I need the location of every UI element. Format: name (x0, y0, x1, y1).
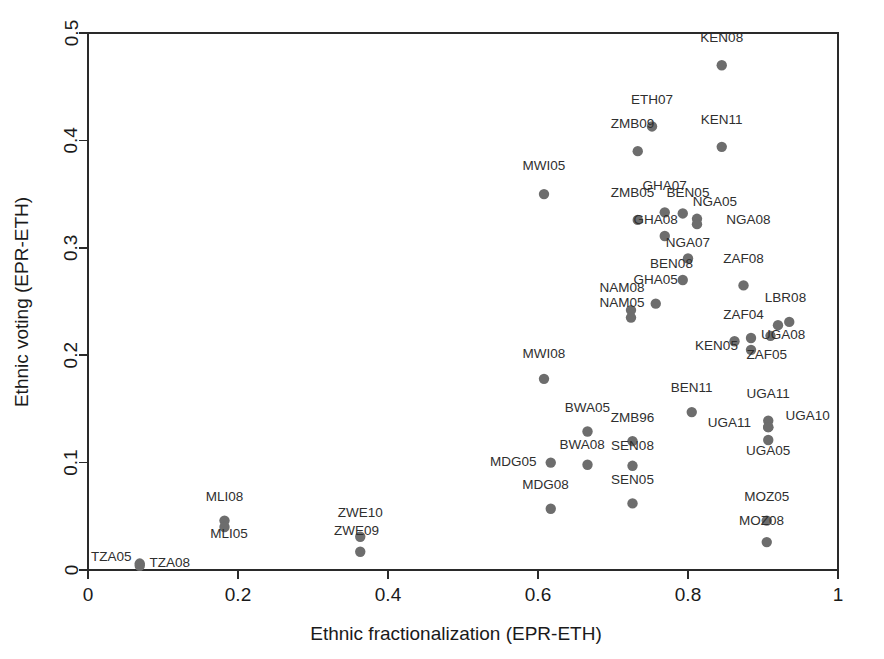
data-point-label: NAM08 (599, 280, 644, 295)
data-point-label: MDG08 (522, 477, 569, 492)
data-point-label: SEN05 (611, 472, 654, 487)
data-point (784, 317, 794, 327)
plot-canvas: 00.20.40.60.81 00.10.20.30.40.5 KEN08ETH… (0, 0, 884, 659)
data-point (717, 60, 727, 70)
x-tick-label: 0 (83, 584, 94, 605)
data-point-label: ZWE09 (334, 523, 379, 538)
data-point (627, 461, 637, 471)
data-point-label: ZAF05 (746, 347, 787, 362)
y-tick-label: 0.5 (61, 20, 82, 46)
data-point (546, 504, 556, 514)
data-point (763, 422, 773, 432)
data-point-label: NGA05 (693, 194, 737, 209)
data-point (746, 333, 756, 343)
data-point-label: ZAF08 (723, 251, 764, 266)
data-point-label: BEN08 (650, 256, 693, 271)
data-point (678, 275, 688, 285)
data-point-label: KEN05 (695, 338, 738, 353)
data-point-label: BEN11 (671, 380, 713, 395)
data-point-label: KEN11 (701, 112, 743, 127)
data-point-label: BWA05 (565, 400, 610, 415)
data-point-label: UGA10 (786, 408, 830, 423)
y-tick-label: 0.1 (61, 449, 82, 475)
data-point (135, 561, 145, 571)
data-point (651, 298, 661, 308)
y-tick-label: 0.4 (61, 127, 82, 154)
y-tick-label: 0 (61, 565, 82, 576)
data-point-label: TZA05 (91, 549, 132, 564)
scatter-plot-figure: 00.20.40.60.81 00.10.20.30.40.5 KEN08ETH… (0, 0, 884, 659)
data-point (633, 146, 643, 156)
data-point-label: LBR08 (765, 290, 806, 305)
data-point-label: NGA07 (666, 235, 710, 250)
data-point (355, 547, 365, 557)
data-point-label: MLI05 (210, 526, 248, 541)
data-point-label: MWI05 (523, 158, 566, 173)
y-axis-ticks: 00.10.20.30.40.5 (61, 20, 89, 576)
data-point (627, 498, 637, 508)
data-point-label: SEN08 (611, 438, 654, 453)
data-point (626, 312, 636, 322)
data-point-label: ZMB05 (611, 185, 655, 200)
data-point-label: KEN08 (700, 30, 743, 45)
data-point (738, 280, 748, 290)
data-point-label: ZAF04 (723, 307, 764, 322)
x-axis-ticks: 00.20.40.60.81 (83, 570, 844, 605)
data-point-label: MLI08 (206, 489, 244, 504)
y-axis-title: Ethnic voting (EPR-ETH) (11, 197, 32, 407)
data-point (539, 374, 549, 384)
data-point (762, 537, 772, 547)
data-point-label: MWI08 (523, 346, 566, 361)
y-tick-label: 0.3 (61, 235, 82, 261)
data-point-label: ZWE10 (338, 505, 383, 520)
data-point-label: ZMB09 (611, 116, 655, 131)
data-point (539, 189, 549, 199)
data-point-label: NGA08 (726, 212, 770, 227)
data-point (692, 219, 702, 229)
data-point-label: UGA11 (747, 386, 790, 401)
data-labels-layer: KEN08ETH07KEN11ZMB09MWI05GHA07BEN05NGA05… (91, 30, 830, 570)
data-point (582, 426, 592, 436)
data-point (582, 460, 592, 470)
y-tick-label: 0.2 (61, 342, 82, 368)
data-point-label: BWA08 (560, 437, 605, 452)
x-axis-title: Ethnic fractionalization (EPR-ETH) (310, 623, 601, 644)
data-point-label: MDG05 (490, 454, 537, 469)
data-point-label: UGA08 (761, 327, 805, 342)
data-point (717, 142, 727, 152)
data-point-label: UGA11 (708, 415, 751, 430)
x-tick-label: 0.8 (675, 584, 701, 605)
x-tick-label: 1 (833, 584, 844, 605)
data-point-label: GHA08 (634, 212, 678, 227)
data-point-label: NAM05 (599, 295, 644, 310)
data-point (546, 457, 556, 467)
data-point (687, 407, 697, 417)
x-tick-label: 0.4 (375, 584, 402, 605)
data-point-label: MOZ08 (739, 513, 784, 528)
data-point (678, 208, 688, 218)
data-point-label: ZMB96 (611, 410, 655, 425)
data-point-label: ETH07 (631, 92, 673, 107)
data-point-label: TZA08 (150, 555, 191, 570)
data-point-label: UGA05 (746, 443, 790, 458)
x-tick-label: 0.2 (225, 584, 251, 605)
x-tick-label: 0.6 (525, 584, 551, 605)
data-point-label: MOZ05 (744, 489, 789, 504)
